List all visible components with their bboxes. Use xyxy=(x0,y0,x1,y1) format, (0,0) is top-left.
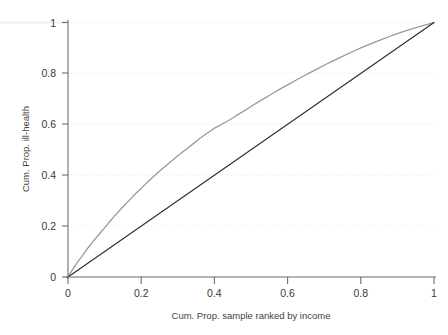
ytick-label-0.4: 0.4 xyxy=(41,169,56,181)
xtick-label-0.4: 0.4 xyxy=(207,287,222,299)
chart-background xyxy=(0,0,448,335)
x-axis-title: Cum. Prop. sample ranked by income xyxy=(172,310,331,321)
ytick-label-1: 1 xyxy=(50,17,56,29)
chart-canvas: 0 0.2 0.4 0.6 0.8 1 0 0.2 0.4 0.6 0.8 1 … xyxy=(0,0,448,335)
concentration-curve-chart: 0 0.2 0.4 0.6 0.8 1 0 0.2 0.4 0.6 0.8 1 … xyxy=(0,0,448,335)
ytick-label-0: 0 xyxy=(50,271,56,283)
xtick-label-0.2: 0.2 xyxy=(134,287,149,299)
ytick-label-0.8: 0.8 xyxy=(41,67,56,79)
xtick-label-0.6: 0.6 xyxy=(280,287,295,299)
xtick-label-0: 0 xyxy=(65,287,71,299)
xtick-label-1: 1 xyxy=(431,287,437,299)
ytick-label-0.6: 0.6 xyxy=(41,118,56,130)
xtick-label-0.8: 0.8 xyxy=(353,287,368,299)
ytick-label-0.2: 0.2 xyxy=(41,220,56,232)
y-axis-title: Cum. Prop. ill-health xyxy=(20,106,31,192)
